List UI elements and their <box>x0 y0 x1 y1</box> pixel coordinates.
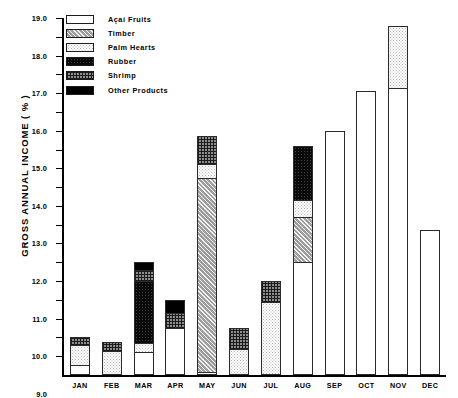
bar-jun[interactable] <box>229 328 249 375</box>
bar-segment-palm-hearts <box>293 200 313 217</box>
legend-item-a-a-fruits[interactable]: Açaí Fruits <box>66 12 168 26</box>
legend-item-palm-hearts[interactable]: Palm Hearts <box>66 40 168 54</box>
bar-segment-a-a-fruits <box>420 230 440 375</box>
bar-segment-palm-hearts <box>261 302 281 375</box>
y-tick: 1.0 <box>56 356 62 357</box>
bar-dec[interactable] <box>420 230 440 375</box>
x-tick-label-apr: APR <box>157 381 193 390</box>
legend-swatch-icon <box>66 15 94 24</box>
legend-swatch-icon <box>66 29 94 38</box>
y-tick-label: 14.0 <box>32 201 47 210</box>
chart-legend: Açaí FruitsTimberPalm HeartsRubberShrimp… <box>66 12 168 97</box>
bar-segment-shrimp <box>102 342 122 350</box>
y-tick-label: 15.0 <box>32 164 47 173</box>
bar-jan[interactable] <box>70 337 90 375</box>
y-tick: 12.0 <box>56 150 62 151</box>
bar-segment-palm-hearts <box>229 349 249 375</box>
bar-segment-a-a-fruits <box>197 372 217 375</box>
x-tick-label-dec: DEC <box>412 381 448 390</box>
y-tick-label: 11.0 <box>32 314 47 323</box>
legend-item-label: Timber <box>108 29 135 38</box>
x-tick-label-jun: JUN <box>221 381 257 390</box>
bar-segment-palm-hearts <box>197 164 217 178</box>
legend-item-label: Other Products <box>108 86 168 95</box>
bar-segment-palm-hearts <box>388 26 408 88</box>
y-tick: 14.0 <box>56 112 62 113</box>
bar-may[interactable] <box>197 136 217 375</box>
bar-segment-timber <box>197 178 217 372</box>
bar-segment-shrimp <box>134 270 154 281</box>
bar-segment-timber <box>293 217 313 262</box>
y-tick: 17.0 <box>56 56 62 57</box>
bar-apr[interactable] <box>165 300 185 375</box>
x-tick-label-sep: SEP <box>317 381 353 390</box>
bar-segment-shrimp <box>229 328 249 349</box>
legend-item-other-products[interactable]: Other Products <box>66 83 168 97</box>
bar-mar[interactable] <box>134 262 154 375</box>
y-axis-title: GROSS ANNUAL INCOME ( % ) <box>19 61 30 291</box>
legend-swatch-icon <box>66 86 94 95</box>
y-tick-label: 12.0 <box>32 277 47 286</box>
bar-aug[interactable] <box>293 146 313 375</box>
y-tick: 2.0 <box>56 337 62 338</box>
x-tick-label-aug: AUG <box>285 381 321 390</box>
bar-segment-a-a-fruits <box>356 91 376 375</box>
y-tick-label: 10.0 <box>32 352 47 361</box>
bar-segment-shrimp <box>70 337 90 345</box>
bar-segment-palm-hearts <box>102 351 122 375</box>
bar-nov[interactable] <box>388 26 408 375</box>
legend-swatch-icon <box>66 43 94 52</box>
bar-feb[interactable] <box>102 342 122 375</box>
legend-item-timber[interactable]: Timber <box>66 26 168 40</box>
bar-segment-a-a-fruits <box>165 328 185 375</box>
bar-segment-a-a-fruits <box>388 88 408 375</box>
y-tick: 6.0 <box>56 262 62 263</box>
y-tick: 4.0 <box>56 300 62 301</box>
x-tick-label-feb: FEB <box>94 381 130 390</box>
y-tick: 19.0 <box>56 18 62 19</box>
bar-segment-other-products <box>165 300 185 313</box>
x-tick-label-mar: MAR <box>126 381 162 390</box>
chart-figure: GROSS ANNUAL INCOME ( % ) 19.018.017.016… <box>0 0 458 398</box>
x-tick-label-jan: JAN <box>62 381 98 390</box>
legend-item-rubber[interactable]: Rubber <box>66 55 168 69</box>
legend-swatch-icon <box>66 57 94 66</box>
bar-segment-a-a-fruits <box>134 352 154 375</box>
bar-oct[interactable] <box>356 91 376 375</box>
x-axis-line <box>62 375 446 377</box>
bar-segment-other-products <box>134 262 154 270</box>
y-tick: 9.0 <box>56 206 62 207</box>
bar-sep[interactable] <box>325 131 345 375</box>
y-axis-line <box>62 18 64 375</box>
y-tick: 13.0 <box>56 131 62 132</box>
x-tick-label-jul: JUL <box>253 381 289 390</box>
bar-segment-a-a-fruits <box>325 131 345 375</box>
x-tick-label-may: MAY <box>189 381 225 390</box>
y-tick: 3.0 <box>56 319 62 320</box>
legend-item-label: Shrimp <box>108 71 136 80</box>
y-tick: 18.0 <box>56 37 62 38</box>
y-tick-label: 19.0 <box>32 14 47 23</box>
bar-segment-palm-hearts <box>70 345 90 365</box>
bar-segment-palm-hearts <box>134 343 154 352</box>
y-tick-label: 18.0 <box>32 51 47 60</box>
y-tick: 8.0 <box>56 225 62 226</box>
legend-item-label: Rubber <box>108 57 137 66</box>
y-tick: 16.0 <box>56 74 62 75</box>
y-tick: 7.0 <box>56 243 62 244</box>
legend-swatch-icon <box>66 71 94 80</box>
x-tick-label-oct: OCT <box>348 381 384 390</box>
bar-segment-shrimp <box>261 281 281 302</box>
legend-item-label: Açaí Fruits <box>108 15 151 24</box>
bar-segment-a-a-fruits <box>293 262 313 375</box>
bar-jul[interactable] <box>261 302 281 375</box>
y-tick: 5.0 <box>56 281 62 282</box>
y-tick-label: 9.0 <box>36 389 47 398</box>
y-tick-label: 16.0 <box>32 126 47 135</box>
legend-item-label: Palm Hearts <box>108 43 156 52</box>
bar-segment-shrimp <box>165 313 185 328</box>
y-tick: 10.0 <box>56 187 62 188</box>
bar-segment-rubber <box>293 146 313 200</box>
legend-item-shrimp[interactable]: Shrimp <box>66 69 168 83</box>
y-tick: 15.0 <box>56 93 62 94</box>
